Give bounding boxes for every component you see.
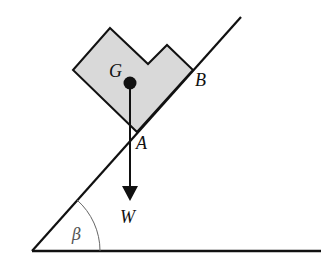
label-g: G xyxy=(109,61,122,81)
label-w: W xyxy=(120,207,137,227)
label-b: B xyxy=(195,70,206,90)
label-a: A xyxy=(135,133,148,153)
weight-arrowhead xyxy=(122,186,138,201)
inclined-plane-diagram: β G B A W xyxy=(0,0,321,265)
angle-label: β xyxy=(71,225,81,244)
centre-of-mass-dot xyxy=(124,77,137,90)
